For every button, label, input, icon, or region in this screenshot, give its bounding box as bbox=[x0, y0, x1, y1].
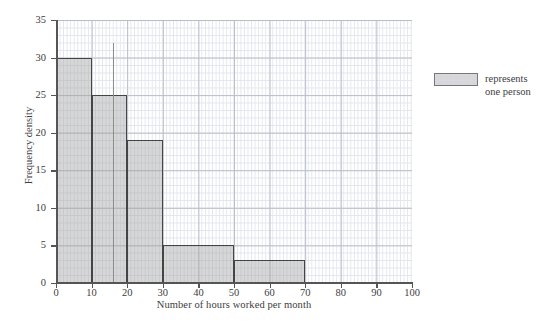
x-tick-label: 0 bbox=[41, 288, 71, 299]
x-axis-title: Number of hours worked per month bbox=[56, 299, 412, 310]
y-tick-label: 35 bbox=[0, 15, 46, 26]
legend-label: represents one person bbox=[485, 73, 544, 98]
x-tick-label: 100 bbox=[397, 288, 427, 299]
x-tick-label: 70 bbox=[290, 288, 320, 299]
y-tick bbox=[51, 245, 56, 246]
stray-vertical-line bbox=[113, 43, 114, 283]
y-tick bbox=[51, 95, 56, 96]
histogram-bars bbox=[56, 20, 412, 283]
legend-label-line1: represents bbox=[485, 73, 544, 86]
histogram-bar bbox=[127, 140, 163, 283]
x-tick-label: 40 bbox=[183, 288, 213, 299]
x-tick-label: 50 bbox=[219, 288, 249, 299]
histogram-bar bbox=[56, 58, 92, 283]
legend: represents one person bbox=[434, 73, 544, 98]
x-tick-label: 30 bbox=[148, 288, 178, 299]
y-tick bbox=[51, 58, 56, 59]
y-axis-line bbox=[56, 20, 58, 284]
chart-figure: 05101520253035 0102030405060708090100 Nu… bbox=[0, 0, 544, 323]
y-tick bbox=[51, 20, 56, 21]
x-tick-label: 10 bbox=[77, 288, 107, 299]
x-tick-label: 20 bbox=[112, 288, 142, 299]
y-tick-label: 5 bbox=[0, 240, 46, 251]
histogram-bar bbox=[234, 260, 305, 283]
histogram-bar bbox=[163, 245, 234, 283]
y-tick bbox=[51, 133, 56, 134]
plot-area bbox=[56, 20, 412, 283]
legend-swatch-icon bbox=[434, 73, 478, 86]
legend-label-line2: one person bbox=[485, 86, 544, 99]
y-tick bbox=[51, 208, 56, 209]
x-tick-label: 90 bbox=[361, 288, 391, 299]
x-tick-label: 60 bbox=[255, 288, 285, 299]
y-tick-label: 0 bbox=[0, 278, 46, 289]
y-axis-title: Frequency density bbox=[23, 56, 34, 236]
y-tick bbox=[51, 170, 56, 171]
x-tick-label: 80 bbox=[326, 288, 356, 299]
histogram-bar bbox=[92, 95, 128, 283]
